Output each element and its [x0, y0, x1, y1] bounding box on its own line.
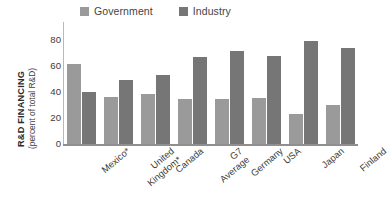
x-label-mexico[interactable]: Mexico* — [99, 146, 131, 175]
legend-swatch-industry — [179, 7, 188, 16]
bar-industry[interactable] — [82, 92, 96, 144]
bar-industry[interactable] — [193, 57, 207, 144]
bar-group — [252, 56, 281, 144]
x-label-japan[interactable]: Japan — [319, 146, 345, 170]
y-axis-title-main: R&D FINANCING — [16, 71, 26, 147]
x-label-finland[interactable]: Finland — [358, 146, 388, 174]
bar-group — [326, 48, 355, 144]
x-label-canada[interactable]: Canada — [173, 146, 205, 175]
bar-industry[interactable] — [230, 51, 244, 144]
bar-government[interactable] — [67, 64, 81, 144]
x-label-usa[interactable]: USA — [281, 146, 303, 166]
bar-government[interactable] — [178, 99, 192, 144]
y-tick-80: 80 — [50, 36, 61, 46]
bar-industry[interactable] — [156, 75, 170, 144]
x-label-germany[interactable]: Germany — [249, 146, 285, 179]
legend-item-government[interactable]: Government — [80, 6, 153, 17]
y-tick-20: 20 — [50, 113, 61, 123]
bar-group — [289, 41, 318, 144]
bar-government[interactable] — [252, 98, 266, 144]
bar-group — [141, 75, 170, 144]
y-axis-title-sub: (percent of total R&D) — [27, 68, 37, 149]
bar-group — [104, 80, 133, 144]
bar-group — [215, 51, 244, 144]
legend-item-industry[interactable]: Industry — [179, 6, 231, 17]
bar-government[interactable] — [141, 94, 155, 144]
y-axis-title: R&D FINANCING (percent of total R&D) — [1, 33, 31, 149]
bar-government[interactable] — [326, 105, 340, 145]
y-tick-40: 40 — [50, 87, 61, 97]
bar-government[interactable] — [215, 99, 229, 144]
bar-groups — [63, 30, 358, 144]
legend-label-government: Government — [94, 6, 153, 17]
x-axis-labels: Mexico*UnitedKingdom*CanadaG7AverageGerm… — [63, 146, 358, 204]
bar-industry[interactable] — [304, 41, 318, 144]
y-tick-0: 0 — [56, 139, 61, 149]
bar-industry[interactable] — [267, 56, 281, 144]
bar-industry[interactable] — [341, 48, 355, 144]
bar-government[interactable] — [289, 114, 303, 144]
bar-government[interactable] — [104, 97, 118, 144]
y-axis-ticks: 020406080 — [39, 30, 61, 144]
legend-label-industry: Industry — [193, 6, 231, 17]
plot-area: 020406080 — [63, 30, 358, 144]
bar-group — [178, 57, 207, 144]
bar-industry[interactable] — [119, 80, 133, 144]
y-tick-60: 60 — [50, 61, 61, 71]
x-label-g7-average[interactable]: G7Average — [211, 146, 251, 184]
chart-legend: Government Industry — [80, 6, 231, 17]
legend-swatch-government — [80, 7, 89, 16]
bar-group — [67, 64, 96, 144]
